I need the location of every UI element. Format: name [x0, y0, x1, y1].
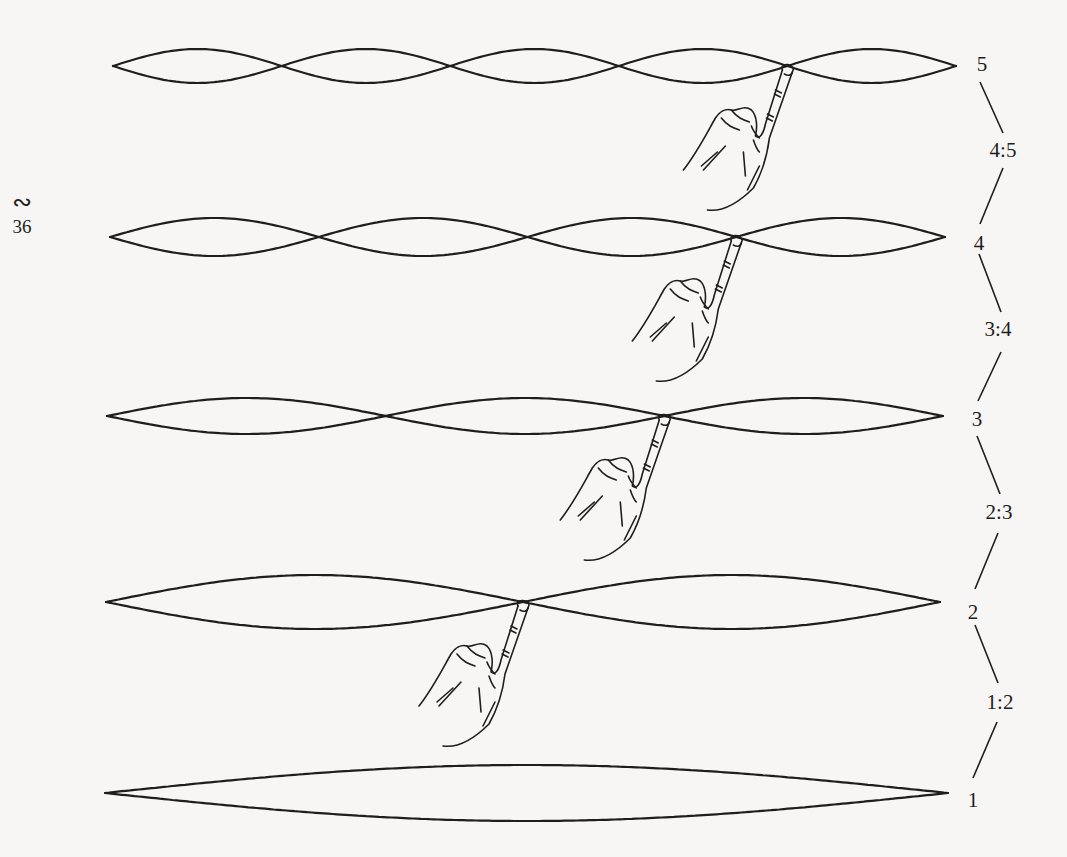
harmonic-number-label: 2 [968, 602, 979, 623]
connector-line [978, 352, 1001, 401]
ratio-label: 1:2 [987, 692, 1014, 713]
ratio-label: 4:5 [990, 140, 1017, 161]
connector-line [975, 625, 998, 683]
ratio-label: 2:3 [986, 502, 1013, 523]
harmonics-diagram [0, 0, 1067, 857]
connector-line [973, 722, 997, 778]
harmonic-number-label: 5 [977, 54, 988, 75]
harmonic-number-label: 1 [968, 790, 979, 811]
string-harmonic-5 [113, 49, 956, 83]
page-ornament-icon: ∾ [0, 190, 44, 214]
ratio-label: 3:4 [985, 319, 1012, 340]
pointing-hand-icon [419, 601, 529, 747]
harmonic-number-label: 3 [972, 409, 983, 430]
page-number: 36 [0, 217, 44, 236]
pointing-hand-icon [560, 415, 670, 561]
connector-line [979, 254, 1001, 312]
string-harmonic-3 [107, 398, 943, 434]
connector-line [975, 533, 998, 589]
pointing-hand-icon [683, 65, 793, 211]
harmonic-number-label: 4 [974, 233, 985, 254]
connector-line [980, 168, 1003, 224]
vibrating-strings [105, 49, 956, 821]
string-harmonic-1 [105, 765, 948, 821]
string-harmonic-4 [110, 218, 945, 256]
connector-line [977, 436, 1000, 494]
pointing-hand-icon [632, 236, 742, 382]
connector-line [980, 82, 1003, 133]
